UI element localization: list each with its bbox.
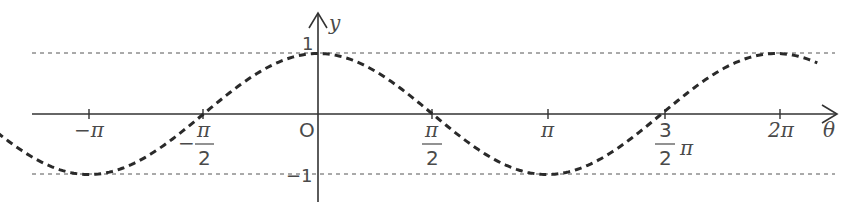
graph-canvas: y 1 −1 O −π − π 2 π 2 π 3 2 π 2π θ (0, 0, 861, 213)
x-tick-three-half-pi-label: 3 2 π (655, 118, 694, 170)
x-tick-two-pi-label: 2π (767, 118, 795, 142)
x-axis-label: θ (823, 118, 835, 142)
y-tick-neg1-label: −1 (286, 165, 313, 186)
svg-text:3: 3 (659, 118, 672, 142)
y-axis-label: y (328, 11, 341, 35)
svg-text:2: 2 (426, 146, 439, 170)
svg-text:π: π (424, 118, 439, 142)
x-tick-pi-label: π (540, 118, 555, 142)
x-tick-neg-pi-label: −π (74, 118, 105, 142)
svg-text:2: 2 (198, 146, 211, 170)
x-tick-neg-half-pi-label: − π 2 (178, 118, 214, 170)
origin-label: O (299, 118, 315, 142)
svg-text:2: 2 (659, 146, 672, 170)
cosine-graph: y 1 −1 O −π − π 2 π 2 π 3 2 π 2π θ (0, 0, 861, 213)
svg-text:π: π (679, 136, 694, 160)
svg-text:−: − (178, 131, 195, 155)
y-tick-1-label: 1 (302, 33, 313, 54)
x-tick-half-pi-label: π 2 (422, 118, 442, 170)
svg-text:π: π (196, 118, 211, 142)
